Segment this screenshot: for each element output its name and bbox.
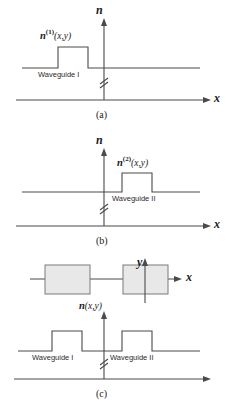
panel-a-caption: (a): [96, 110, 107, 120]
panel-c-inset-x-arrowhead: [174, 276, 182, 282]
panel-c-inset-y-axis-label: y: [137, 256, 142, 268]
panel-c-inset-cross-sections: [30, 258, 182, 303]
panel-c: y x n(x,y) Waveguide I Waveguide II (c): [0, 255, 233, 410]
panel-c-core-rect-waveguide-1: [45, 265, 90, 294]
panel-a-graphic: [0, 0, 233, 130]
panel-c-inset-y-arrowhead: [142, 258, 148, 266]
panel-b-n-arrowhead: [101, 148, 107, 156]
panel-a-n-arrowhead: [101, 18, 107, 26]
panel-b-graphic: [0, 130, 233, 255]
panel-a-profile-argument: (x,y): [54, 31, 71, 41]
panel-b-x-arrowhead: [203, 223, 211, 229]
panel-c-profile-argument: (x,y): [85, 301, 102, 311]
panel-a-region-label-waveguide-1: Waveguide I: [38, 71, 79, 79]
panel-c-n-arrowhead: [101, 311, 107, 319]
panel-b-region-label-waveguide-2: Waveguide II: [112, 195, 156, 203]
panel-a-n-axis-label: n: [96, 4, 103, 16]
panel-a-profile-superscript: (1): [46, 28, 54, 36]
panel-c-index-profile: [18, 331, 200, 351]
panel-c-inset-x-axis-label: x: [186, 271, 192, 283]
panel-b-profile-label: n(2)(x,y): [117, 156, 148, 168]
panel-c-caption: (c): [96, 389, 107, 399]
panel-c-x-arrowhead: [203, 376, 211, 382]
panel-c-region-label-waveguide-1: Waveguide I: [32, 354, 73, 362]
panel-b: n x n(2)(x,y) Waveguide II (b): [0, 130, 233, 255]
panel-c-graphic: [0, 255, 233, 410]
panel-a-profile-label: n(1)(x,y): [40, 29, 71, 41]
panel-b-caption: (b): [96, 236, 108, 246]
panel-b-x-axis-label: x: [214, 218, 220, 230]
panel-a-x-axis-label: x: [214, 92, 220, 104]
panel-a: n x n(1)(x,y) Waveguide I (a): [0, 0, 233, 130]
panel-b-profile-argument: (x,y): [131, 158, 148, 168]
panel-a-x-arrowhead: [203, 97, 211, 103]
panel-b-index-profile: [22, 173, 200, 192]
panel-b-n-axis-label: n: [96, 134, 103, 146]
panel-c-region-label-waveguide-2: Waveguide II: [110, 354, 154, 362]
panel-c-profile-label: n(x,y): [79, 299, 102, 311]
panel-b-profile-superscript: (2): [123, 155, 131, 163]
waveguide-index-profile-figure: n x n(1)(x,y) Waveguide I (a) n x: [0, 0, 233, 410]
panel-a-index-profile: [22, 47, 200, 68]
